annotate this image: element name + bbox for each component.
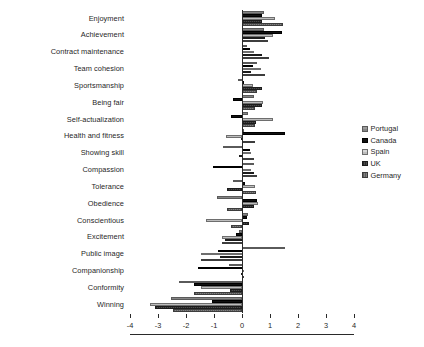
- x-tick-8: [354, 314, 355, 318]
- legend-swatch-portugal: [362, 126, 368, 132]
- x-axis-line: [130, 334, 354, 335]
- x-tick-3: [214, 314, 215, 318]
- x-tick-1: [158, 314, 159, 318]
- bar-germany-public-image: [201, 259, 242, 262]
- x-tick-0: [130, 314, 131, 318]
- x-tick-7: [326, 314, 327, 318]
- legend-swatch-spain: [362, 149, 368, 155]
- bar-canada-compassion: [213, 166, 242, 169]
- category-label-showing-skill: Showing skill: [81, 148, 124, 157]
- bar-germany-conformity: [194, 292, 242, 295]
- bar-germany-self-actualization: [242, 124, 255, 127]
- bar-spain-health-and-fitness: [226, 135, 242, 138]
- category-label-being-fair: Being fair: [92, 98, 124, 107]
- legend-item-canada[interactable]: Canada: [362, 135, 422, 147]
- legend-label-uk: UK: [371, 159, 381, 168]
- bar-germany-sportsmanship: [242, 90, 257, 93]
- bar-canada-being-fair: [233, 98, 242, 101]
- x-tick-label-4: 0: [232, 321, 252, 330]
- x-axis: -4-3-2-101234: [130, 313, 354, 335]
- category-label-public-image: Public image: [81, 249, 124, 258]
- x-tick-label-8: 4: [344, 321, 364, 330]
- category-label-tolerance: Tolerance: [92, 182, 125, 191]
- x-tick-label-3: -1: [204, 321, 224, 330]
- category-label-enjoyment: Enjoyment: [89, 14, 124, 23]
- x-tick-label-6: 2: [288, 321, 308, 330]
- category-label-conscientious: Conscientious: [77, 216, 124, 225]
- bar-germany-health-and-fitness: [242, 141, 255, 144]
- bar-germany-enjoyment: [242, 23, 283, 26]
- category-label-contract-maintenance: Contract maintenance: [51, 47, 124, 56]
- x-tick-label-0: -4: [120, 321, 140, 330]
- bar-canada-health-and-fitness: [242, 132, 285, 135]
- legend-item-germany[interactable]: Germany: [362, 169, 422, 181]
- bar-germany-showing-skill: [242, 158, 254, 161]
- bar-portugal-obedience: [217, 196, 242, 199]
- x-tick-label-5: 1: [260, 321, 280, 330]
- bar-germany-winning: [173, 309, 242, 312]
- bar-portugal-compassion: [242, 163, 254, 166]
- category-label-team-cohesion: Team cohesion: [74, 64, 124, 73]
- legend: PortugalCanadaSpainUKGermany: [362, 123, 422, 181]
- legend-label-germany: Germany: [371, 171, 401, 180]
- bar-germany-excitement: [222, 242, 242, 245]
- bar-uk-conscientious: [242, 222, 249, 225]
- bar-spain-showing-skill: [242, 152, 251, 155]
- legend-swatch-germany: [362, 172, 368, 178]
- legend-swatch-canada: [362, 138, 368, 144]
- bar-spain-conscientious: [206, 219, 242, 222]
- x-tick-label-7: 3: [316, 321, 336, 330]
- bar-germany-team-cohesion: [242, 74, 265, 77]
- zero-axis-line: [242, 10, 243, 313]
- category-axis-labels: EnjoymentAchievementContract maintenance…: [0, 0, 128, 347]
- bar-uk-tolerance: [227, 188, 242, 191]
- plot-area: [130, 10, 354, 313]
- bar-germany-achievement: [242, 40, 268, 43]
- legend-label-portugal: Portugal: [371, 124, 399, 133]
- x-tick-label-2: -2: [176, 321, 196, 330]
- bar-portugal-public-image: [242, 247, 285, 250]
- category-label-compassion: Compassion: [82, 165, 124, 174]
- legend-item-uk[interactable]: UK: [362, 158, 422, 170]
- x-tick-4: [242, 314, 243, 318]
- category-label-winning: Winning: [97, 300, 124, 309]
- x-tick-label-1: -3: [148, 321, 168, 330]
- category-label-sportsmanship: Sportsmanship: [74, 81, 124, 90]
- bar-portugal-tolerance: [233, 180, 242, 183]
- legend-swatch-uk: [362, 161, 368, 167]
- legend-item-spain[interactable]: Spain: [362, 146, 422, 158]
- category-label-achievement: Achievement: [81, 30, 124, 39]
- bar-chart: EnjoymentAchievementContract maintenance…: [0, 0, 424, 347]
- category-label-self-actualization: Self-actualization: [67, 115, 124, 124]
- bar-germany-being-fair: [242, 107, 255, 110]
- bar-germany-contract-maintenance: [242, 57, 269, 60]
- bar-germany-tolerance: [242, 191, 256, 194]
- bar-portugal-being-fair: [242, 95, 254, 98]
- bar-canada-self-actualization: [231, 115, 242, 118]
- x-tick-5: [270, 314, 271, 318]
- category-label-obedience: Obedience: [88, 199, 124, 208]
- bar-germany-conscientious: [231, 225, 242, 228]
- bar-germany-obedience: [227, 208, 242, 211]
- bar-germany-compassion: [242, 175, 257, 178]
- bar-portugal-showing-skill: [223, 146, 242, 149]
- category-label-companionship: Companionship: [72, 266, 124, 275]
- bar-canada-companionship: [198, 267, 242, 270]
- category-label-excitement: Excitement: [87, 232, 124, 241]
- legend-item-portugal[interactable]: Portugal: [362, 123, 422, 135]
- bar-uk-obedience: [242, 205, 254, 208]
- legend-label-spain: Spain: [371, 147, 390, 156]
- legend-label-canada: Canada: [371, 136, 397, 145]
- x-tick-2: [186, 314, 187, 318]
- bar-spain-tolerance: [242, 185, 255, 188]
- x-tick-6: [298, 314, 299, 318]
- category-label-health-and-fitness: Health and fitness: [64, 131, 124, 140]
- category-label-conformity: Conformity: [88, 283, 124, 292]
